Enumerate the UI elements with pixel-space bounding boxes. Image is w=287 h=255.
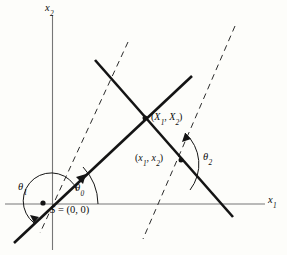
lowercase-point-first-sub: 1 bbox=[143, 159, 147, 168]
descending-solid-line bbox=[95, 60, 233, 217]
capital-point-second-sub: 2 bbox=[176, 118, 180, 127]
lowercase-point-marker bbox=[179, 158, 184, 163]
theta-two-label: θ2 bbox=[203, 152, 212, 165]
x1-axis-label-base: x bbox=[268, 194, 273, 205]
theta-zero-label: θ0 bbox=[75, 183, 84, 196]
origin-label-value: (0, 0) bbox=[66, 204, 89, 215]
lowercase-point-second-sub: 2 bbox=[156, 159, 160, 168]
theta-zero-label-sub: 0 bbox=[80, 189, 84, 198]
x1-axis-label: x1 bbox=[268, 195, 276, 208]
lowercase-point-close: ) bbox=[160, 152, 163, 163]
right-dashed-line bbox=[143, 26, 235, 239]
solid-lines-group bbox=[14, 60, 233, 243]
theta-two-arc bbox=[185, 133, 199, 190]
ascending-solid-line bbox=[14, 76, 192, 243]
vector-angle-diagram: x2 x1 θ0 θ1 θ2 (X1, X2) (x1, x2) S = (0,… bbox=[0, 0, 287, 255]
origin-label-equals: = bbox=[55, 204, 66, 215]
x1-axis-label-sub: 1 bbox=[273, 201, 277, 210]
capital-point-label: (X1, X2) bbox=[151, 112, 182, 124]
x2-axis-label-sub: 2 bbox=[50, 9, 54, 18]
capital-point-marker bbox=[143, 116, 148, 121]
capital-point-first-base: X bbox=[154, 111, 160, 122]
origin-label: S = (0, 0) bbox=[50, 205, 89, 216]
theta-two-label-sub: 2 bbox=[208, 158, 212, 167]
theta-one-label-sub: 1 bbox=[23, 188, 27, 197]
lowercase-point-label: (x1, x2) bbox=[135, 153, 163, 165]
theta-one-label: θ1 bbox=[18, 182, 27, 195]
diagram-canvas bbox=[0, 0, 287, 255]
capital-point-close: ) bbox=[179, 111, 182, 122]
capital-point-second-base: X bbox=[169, 111, 175, 122]
capital-point-first-sub: 1 bbox=[161, 118, 165, 127]
x2-axis-label: x2 bbox=[45, 3, 53, 16]
origin-marker bbox=[40, 200, 45, 205]
x2-axis-label-base: x bbox=[45, 2, 50, 13]
